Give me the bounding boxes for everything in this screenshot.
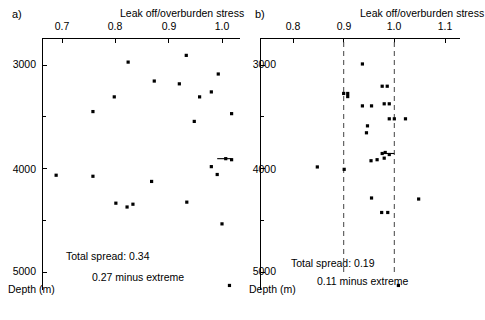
data-point-14 <box>230 158 233 161</box>
data-point-4 <box>185 54 188 57</box>
data-point-15 <box>381 152 384 155</box>
data-point-8 <box>198 95 201 98</box>
data-point-1 <box>381 85 384 88</box>
data-point-23 <box>370 196 373 199</box>
data-point-6 <box>383 102 386 105</box>
data-point-0 <box>361 62 364 65</box>
chart-panel-a: a) Leak off/overburden stress 0.7 0.8 0.… <box>0 0 243 320</box>
data-point-1 <box>153 79 156 82</box>
data-point-12 <box>210 165 213 168</box>
data-point-9 <box>230 112 233 115</box>
data-point-6 <box>178 82 181 85</box>
data-point-11 <box>393 117 396 120</box>
data-point-22 <box>220 222 223 225</box>
data-point-5 <box>346 95 349 98</box>
data-point-21 <box>316 165 319 168</box>
data-point-16 <box>384 151 387 154</box>
data-point-20 <box>383 157 386 160</box>
data-point-22 <box>343 168 346 171</box>
data-point-2 <box>113 95 116 98</box>
data-point-21 <box>185 201 188 204</box>
data-point-23 <box>228 284 231 287</box>
data-point-14 <box>365 131 368 134</box>
data-point-2 <box>386 85 389 88</box>
data-point-24 <box>417 197 420 200</box>
data-point-15 <box>55 174 58 177</box>
data-point-13 <box>216 173 219 176</box>
data-point-3 <box>91 110 94 113</box>
data-point-17 <box>150 180 153 183</box>
data-point-26 <box>386 211 389 214</box>
data-point-13 <box>366 124 369 127</box>
data-point-9 <box>370 104 373 107</box>
data-point-4 <box>346 92 349 95</box>
data-point-17 <box>388 153 391 156</box>
data-point-18 <box>369 159 372 162</box>
figure-root: a) Leak off/overburden stress 0.7 0.8 0.… <box>0 0 485 320</box>
data-point-18 <box>114 202 117 205</box>
data-point-16 <box>91 175 94 178</box>
data-point-10 <box>388 117 391 120</box>
data-point-5 <box>217 72 220 75</box>
data-point-7 <box>388 102 391 105</box>
plot-area-a <box>0 0 243 320</box>
data-point-19 <box>376 158 379 161</box>
data-point-25 <box>380 211 383 214</box>
data-point-0 <box>127 61 130 64</box>
data-point-19 <box>125 205 128 208</box>
data-point-7 <box>210 90 213 93</box>
data-point-11 <box>224 157 227 160</box>
chart-panel-b: b) Leak off/overburden stress 0.8 0.9 1.… <box>242 0 485 320</box>
data-point-8 <box>361 104 364 107</box>
data-point-10 <box>193 120 196 123</box>
data-point-3 <box>342 92 345 95</box>
data-point-12 <box>404 117 407 120</box>
data-point-20 <box>131 203 134 206</box>
plot-area-b <box>242 0 485 320</box>
data-point-27 <box>397 284 400 287</box>
